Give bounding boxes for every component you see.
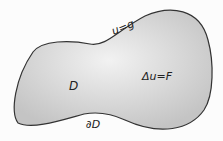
equation-label: Δu=F xyxy=(141,70,173,83)
boundary-label: ∂D xyxy=(86,118,100,131)
domain-diagram: u=g D Δu=F ∂D xyxy=(0,0,223,141)
region-label: D xyxy=(69,79,78,93)
diagram-canvas: u=g D Δu=F ∂D xyxy=(0,0,223,141)
